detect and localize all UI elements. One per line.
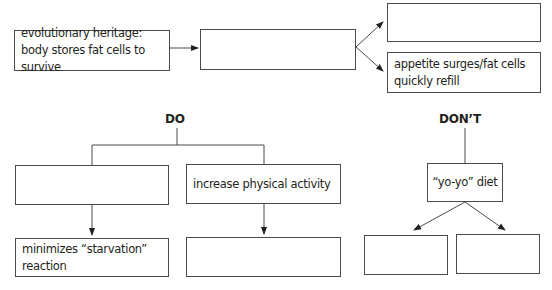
dont-action-text: “yo-yo” diet	[432, 174, 497, 191]
do-left-result-box: minimizes “starvation” reaction	[15, 238, 169, 277]
dont-action-box: “yo-yo” diet	[427, 163, 503, 202]
middle-blank-box[interactable]	[200, 29, 356, 70]
dont-result-right-blank-box[interactable]	[456, 234, 540, 274]
dont-heading: DON’T	[439, 112, 481, 126]
cause-text: evolutionary heritage: body stores fat c…	[21, 25, 163, 76]
cause-box: evolutionary heritage: body stores fat c…	[14, 30, 170, 71]
do-right-action-text: increase physical activity	[193, 176, 331, 193]
do-right-result-blank-box[interactable]	[186, 237, 341, 277]
effect-bottom-box: appetite surges/fat cells quickly refill	[387, 52, 541, 93]
do-heading: DO	[165, 112, 185, 126]
do-right-action-box: increase physical activity	[186, 164, 341, 204]
do-left-action-blank-box[interactable]	[15, 165, 169, 205]
effect-bottom-text: appetite surges/fat cells quickly refill	[394, 56, 534, 90]
effect-top-blank-box[interactable]	[387, 3, 541, 42]
do-left-result-text: minimizes “starvation” reaction	[22, 241, 162, 275]
dont-result-left-blank-box[interactable]	[364, 235, 448, 275]
